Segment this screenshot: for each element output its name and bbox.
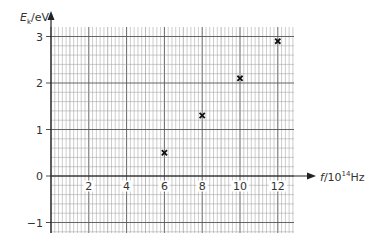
x-axis-label: f/1014Hz bbox=[320, 171, 365, 183]
x-tick-label: 6 bbox=[159, 181, 170, 192]
y-tick-label: −1 bbox=[27, 217, 43, 228]
y-tick-label: 3 bbox=[36, 31, 43, 42]
y-tick-label: 0 bbox=[36, 171, 43, 182]
x-tick-label: 8 bbox=[197, 181, 208, 192]
x-tick-label: 4 bbox=[121, 181, 132, 192]
x-tick-label: 10 bbox=[231, 181, 249, 192]
x-tick-label: 2 bbox=[83, 181, 94, 192]
x-axis-arrow-icon bbox=[307, 173, 316, 180]
chart-area bbox=[0, 0, 375, 245]
y-tick-label: 2 bbox=[36, 78, 43, 89]
x-tick-label: 12 bbox=[269, 181, 287, 192]
y-axis-label: Ek/eV bbox=[20, 12, 49, 26]
y-tick-label: 1 bbox=[36, 124, 43, 135]
